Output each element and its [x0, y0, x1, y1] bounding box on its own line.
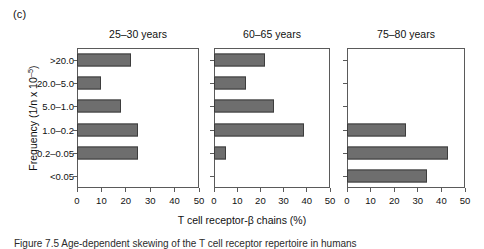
x-tick-mark	[417, 188, 418, 192]
chart-panel-25-30-years: 25–30 years 01020304050	[77, 48, 199, 188]
x-tick-label: 30	[278, 195, 289, 206]
bar	[347, 123, 406, 136]
x-tick-label: 20	[255, 195, 266, 206]
bar	[77, 147, 138, 160]
x-tick-label: 40	[436, 195, 447, 206]
bars-layer-0: 01020304050	[77, 48, 199, 188]
x-tick-label: 10	[96, 195, 107, 206]
y-tick-mark	[343, 106, 347, 107]
panel-letter: (c)	[13, 8, 26, 20]
x-tick-mark	[77, 188, 78, 192]
x-tick-label: 50	[325, 195, 336, 206]
x-tick-label: 30	[145, 195, 156, 206]
x-tick-mark	[283, 188, 284, 192]
bar	[77, 77, 101, 90]
chart-panel-75-80-years: 75–80 years 01020304050	[347, 48, 465, 188]
bar	[214, 147, 226, 160]
x-tick-label: 10	[232, 195, 243, 206]
x-tick-label: 20	[389, 195, 400, 206]
y-tick-mark	[210, 176, 214, 177]
bar	[214, 77, 246, 90]
bar	[77, 100, 121, 113]
y-tick-mark	[73, 176, 77, 177]
x-tick-mark	[237, 188, 238, 192]
x-tick-mark	[441, 188, 442, 192]
x-tick-mark	[150, 188, 151, 192]
y-tick-mark	[343, 83, 347, 84]
bar	[77, 123, 138, 136]
bar	[77, 53, 131, 66]
x-tick-mark	[330, 188, 331, 192]
x-tick-label: 0	[74, 195, 79, 206]
y-tick-label-1: 20.0–5.0	[18, 78, 74, 89]
bars-layer-1: 01020304050	[214, 48, 330, 188]
x-tick-label: 50	[460, 195, 471, 206]
x-tick-label: 10	[365, 195, 376, 206]
x-tick-mark	[306, 188, 307, 192]
y-tick-label-2: 5.0–1.0	[18, 101, 74, 112]
x-tick-mark	[370, 188, 371, 192]
chart-panel-60-65-years: 60–65 years 01020304050	[214, 48, 330, 188]
y-tick-label-4: 0.2–0.05	[18, 148, 74, 159]
bars-layer-2: 01020304050	[347, 48, 465, 188]
x-tick-label: 0	[211, 195, 216, 206]
x-tick-mark	[199, 188, 200, 192]
panel-title-2: 75–80 years	[347, 28, 465, 40]
panel-title-0: 25–30 years	[77, 28, 199, 40]
bar	[347, 170, 427, 183]
y-tick-label-5: <0.05	[18, 171, 74, 182]
y-tick-label-3: 1.0–0.2	[18, 124, 74, 135]
bar	[347, 147, 448, 160]
x-tick-mark	[260, 188, 261, 192]
x-tick-mark	[174, 188, 175, 192]
x-tick-mark	[101, 188, 102, 192]
figure-caption: Figure 7.5 Age-dependent skewing of the …	[14, 238, 470, 249]
y-tick-mark	[343, 60, 347, 61]
x-axis-title: T cell receptor-β chains (%)	[0, 214, 484, 226]
y-tick-label-0: >20.0	[18, 54, 74, 65]
y-axis-tick-labels: >20.0 20.0–5.0 5.0–1.0 1.0–0.2 0.2–0.05 …	[18, 48, 74, 188]
bar	[214, 123, 304, 136]
x-tick-mark	[214, 188, 215, 192]
x-tick-label: 20	[121, 195, 132, 206]
x-tick-label: 50	[194, 195, 205, 206]
x-tick-mark	[394, 188, 395, 192]
x-tick-label: 30	[413, 195, 424, 206]
x-tick-mark	[465, 188, 466, 192]
x-tick-mark	[125, 188, 126, 192]
x-tick-mark	[347, 188, 348, 192]
x-tick-label: 40	[302, 195, 313, 206]
panel-title-1: 60–65 years	[214, 28, 330, 40]
bar	[214, 53, 265, 66]
bar	[214, 100, 274, 113]
x-tick-label: 40	[169, 195, 180, 206]
x-tick-label: 0	[344, 195, 349, 206]
